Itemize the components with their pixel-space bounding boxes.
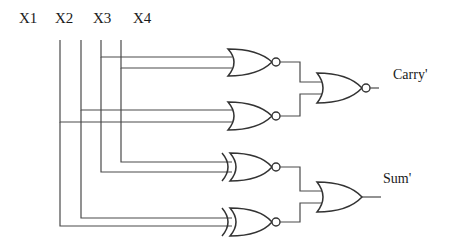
nor-gate-1: [228, 49, 280, 76]
xnor-gate-3: [222, 153, 280, 181]
circuit-svg: [0, 0, 452, 249]
xnor-gate-4: [222, 208, 280, 236]
wire-x4-g1: [121, 40, 232, 68]
wire-g1-g5: [280, 62, 322, 82]
nor-gate-carry: [317, 73, 370, 103]
wire-g2-g5: [280, 94, 322, 116]
logic-circuit-diagram: X1 X2 X3 X4 Carry' Sum': [0, 0, 452, 249]
output-label-carry: Carry': [393, 67, 427, 83]
wire-x1-g4: [60, 122, 232, 226]
wire-x2-g4: [81, 110, 232, 218]
output-label-sum: Sum': [383, 171, 411, 187]
input-label-x3: X3: [93, 10, 111, 27]
input-label-x2: X2: [55, 10, 73, 27]
or-gate-sum: [317, 182, 362, 212]
nor-gate-2: [228, 102, 280, 130]
input-label-x1: X1: [19, 10, 37, 27]
input-label-x4: X4: [133, 10, 151, 27]
wire-x2-g2: [81, 40, 232, 110]
wire-g3-g6: [280, 167, 322, 191]
wire-x4-g3: [121, 68, 232, 162]
